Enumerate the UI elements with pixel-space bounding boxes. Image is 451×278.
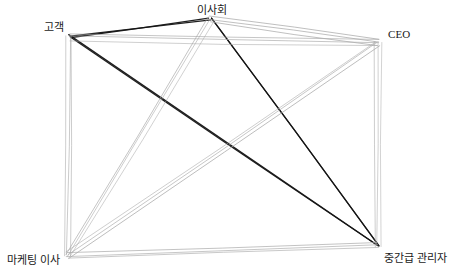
node-point-board[interactable] (210, 19, 211, 20)
node-point-customer[interactable] (70, 36, 71, 37)
node-label-marketing-director: 마케팅 이사 (7, 254, 60, 266)
node-point-ceo[interactable] (378, 43, 379, 44)
edge-customer-to-middle-manager (69, 35, 378, 246)
edge-board-to-middle-manager (211, 18, 379, 246)
node-label-customer: 고객 (44, 21, 64, 33)
edge-board-to-marketing-director (66, 17, 214, 257)
edge-customer-to-marketing-director (65, 35, 72, 256)
node-label-middle-manager: 중간급 관리자 (384, 252, 447, 264)
edge-marketing-director-to-middle-manager (66, 243, 378, 259)
organization-network-diagram: 고객이사회CEO마케팅 이사중간급 관리자 (0, 0, 451, 278)
node-label-ceo: CEO (388, 28, 410, 40)
edge-ceo-to-middle-manager (374, 41, 382, 246)
edge-ceo-to-marketing-director (66, 42, 380, 258)
node-label-board: 이사회 (197, 4, 227, 16)
node-point-middle-manager[interactable] (378, 246, 379, 247)
edge-canvas (0, 0, 451, 278)
node-point-marketing-director[interactable] (67, 256, 68, 257)
